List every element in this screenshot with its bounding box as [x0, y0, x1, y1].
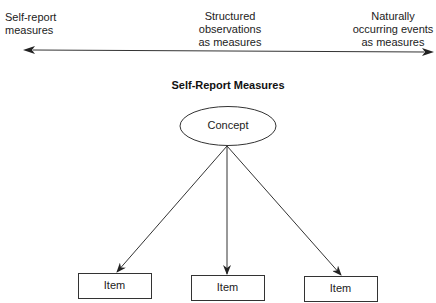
arrow-to-item-3 — [227, 146, 341, 275]
diagram-canvas — [0, 0, 436, 303]
arrow-to-item-1 — [117, 146, 227, 272]
item-label-1: Item — [78, 279, 151, 291]
item-label-3: Item — [304, 282, 377, 294]
concept-label: Concept — [180, 119, 276, 131]
continuum-double-arrow — [23, 46, 434, 56]
item-label-2: Item — [191, 281, 264, 293]
diagram-title: Self-Report Measures — [0, 79, 436, 91]
